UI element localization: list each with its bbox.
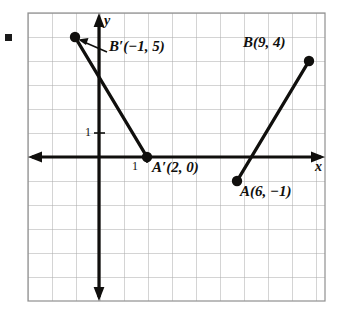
point-label-b: B(9, 4) <box>243 34 286 51</box>
point-label-a-prime: A′(2, 0) <box>152 159 199 176</box>
y-axis-unit-tick-label: 1 <box>85 125 91 140</box>
x-axis-label: x <box>315 159 322 175</box>
figure-canvas: B′(−1, 5) B(9, 4) A′(2, 0) A(6, −1) x y … <box>0 0 341 317</box>
point-label-b-prime: B′(−1, 5) <box>109 38 165 55</box>
point-b-prime <box>70 32 80 42</box>
x-axis-unit-tick-label: 1 <box>132 159 138 174</box>
y-axis-label: y <box>104 13 110 29</box>
point-b <box>304 56 314 66</box>
point-a-prime <box>142 152 152 162</box>
point-label-a: A(6, −1) <box>240 183 292 200</box>
